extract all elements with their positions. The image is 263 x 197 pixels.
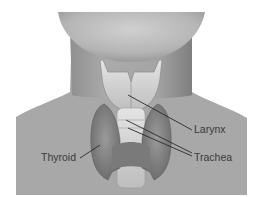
larynx-label: Larynx: [194, 124, 226, 135]
trachea-label: Trachea: [194, 152, 232, 163]
neck-anatomy-figure: Larynx Trachea Thyroid: [0, 0, 263, 197]
thyroid-isthmus: [112, 142, 150, 170]
thyroid-label: Thyroid: [41, 152, 76, 163]
anatomy-illustration: [0, 0, 263, 197]
